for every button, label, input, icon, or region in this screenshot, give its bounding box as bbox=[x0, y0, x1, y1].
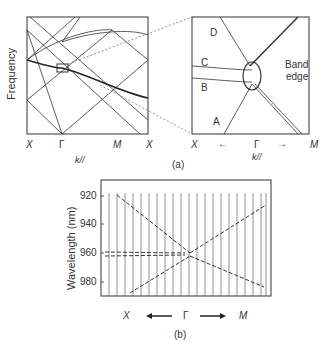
crossing-ellipse bbox=[243, 62, 261, 90]
tick-gamma-left: Γ bbox=[59, 140, 65, 150]
dispersion-lines bbox=[105, 195, 266, 293]
panel-b-caption: (b) bbox=[174, 330, 186, 340]
arrow-left-zoom: ← bbox=[218, 139, 228, 149]
band-lines bbox=[27, 17, 148, 134]
tick-gamma-spectra: Γ bbox=[183, 311, 189, 321]
ytick-920: 920 bbox=[80, 191, 97, 201]
band-edge-label-2: edge bbox=[286, 72, 308, 82]
spectra-frame bbox=[101, 180, 271, 296]
band-label-a: A bbox=[213, 117, 220, 127]
ytick-980: 980 bbox=[80, 277, 97, 287]
frequency-axis-label: Frequency bbox=[6, 48, 17, 100]
tick-x-left: X bbox=[26, 140, 33, 150]
tick-m-left: M bbox=[113, 140, 121, 150]
tick-x-right: X bbox=[146, 140, 153, 150]
band-edge-label-1: Band bbox=[285, 60, 308, 70]
panel-a-caption: (a) bbox=[172, 160, 184, 170]
band-label-b: B bbox=[201, 83, 208, 93]
band-label-c: C bbox=[201, 58, 208, 68]
spectra-traces bbox=[109, 193, 266, 296]
tick-gamma-zoom: Γ bbox=[254, 140, 260, 150]
tick-m-zoom: M bbox=[310, 140, 318, 150]
arrow-right-zoom: → bbox=[277, 139, 287, 149]
tick-x-zoom: X bbox=[191, 140, 198, 150]
k-parallel-label-left: k// bbox=[75, 156, 85, 165]
ytick-960: 960 bbox=[80, 248, 97, 258]
ytick-940: 940 bbox=[80, 219, 97, 229]
tick-x-spectra: X bbox=[123, 311, 130, 321]
k-parallel-label-right: k// bbox=[252, 153, 262, 162]
tick-m-spectra: M bbox=[239, 311, 247, 321]
wavelength-axis-label: Wavelength (nm) bbox=[66, 207, 77, 290]
thick-bands bbox=[27, 60, 148, 98]
figure-canvas bbox=[0, 0, 329, 346]
band-label-d: D bbox=[210, 28, 217, 38]
